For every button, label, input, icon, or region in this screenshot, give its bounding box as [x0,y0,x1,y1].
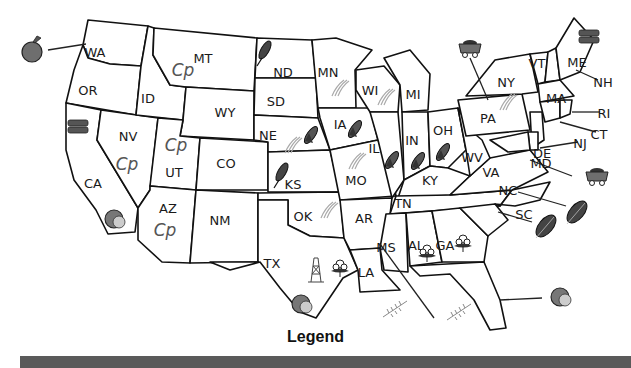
copper-icon: Cp [172,60,195,80]
us-resource-map: WAORIDMTWYNDSDNEKSMNIAMOWIMIILINOHKYTNWV… [0,0,631,368]
state-label-ar: AR [355,211,373,226]
state-label-oh: OH [433,123,453,138]
state-label-nj: NJ [573,136,587,151]
state-label-sc: SC [515,207,532,222]
state-label-ga: GA [436,238,455,253]
state-label-la: LA [358,265,375,280]
state-label-mi: MI [405,87,420,102]
state-shape-md[interactable] [490,132,530,152]
state-label-ks: KS [285,177,302,192]
state-shape-sd[interactable] [254,78,318,118]
coal-cart-icon [586,168,608,186]
state-label-mn: MN [318,65,339,80]
copper-icon: Cp [116,154,139,174]
state-shape-fl[interactable] [410,262,506,330]
state-label-id: ID [141,91,155,106]
state-label-nh: NH [593,75,613,90]
state-label-sd: SD [267,94,285,109]
state-label-nm: NM [210,213,231,228]
state-label-tn: TN [393,196,412,211]
state-label-mo: MO [345,173,366,188]
citrus-icon [551,288,571,306]
rice-icon [383,301,407,317]
state-label-md: MD [530,156,551,171]
state-label-wy: WY [215,105,236,120]
state-label-ms: MS [376,240,395,255]
state-label-il: IL [368,141,380,156]
state-label-ia: IA [334,117,347,132]
svg-text:Cp: Cp [165,135,188,155]
coal-cart-icon [459,40,481,58]
state-label-co: CO [216,156,235,171]
state-label-me: ME [567,55,586,70]
state-label-ny: NY [497,75,515,90]
state-label-az: AZ [159,201,177,216]
state-label-nd: ND [273,65,293,80]
state-label-wi: WI [362,83,379,98]
state-label-va: VA [483,165,500,180]
state-label-ma: MA [546,91,566,106]
tobacco-leaf-icon [563,198,590,227]
state-label-ut: UT [165,165,183,180]
state-label-wa: WA [84,45,105,60]
state-label-pa: PA [480,111,496,126]
state-label-ct: CT [590,127,607,142]
state-label-ky: KY [422,173,438,188]
svg-text:Cp: Cp [116,154,139,174]
tobacco-leaf-icon [532,212,559,241]
state-label-ca: CA [84,176,102,191]
state-label-nc: NC [499,183,518,198]
apple-icon [22,36,42,62]
state-label-or: OR [78,83,97,98]
state-label-ok: OK [294,209,313,224]
state-label-mt: MT [193,51,212,66]
svg-text:Cp: Cp [172,60,195,80]
state-label-wv: WV [461,150,483,165]
state-label-vt: VT [529,56,546,71]
state-label-tx: TX [263,256,281,271]
state-shape-me[interactable] [556,18,594,80]
state-label-ri: RI [598,106,611,121]
legend-bar [20,356,631,368]
copper-icon: Cp [154,220,177,240]
state-label-ne: NE [259,128,277,143]
legend-title: Legend [0,328,631,346]
svg-text:Cp: Cp [154,220,177,240]
state-label-in: IN [405,133,419,148]
copper-icon: Cp [165,135,188,155]
rice-icon [447,304,471,320]
state-label-nv: NV [119,129,138,144]
